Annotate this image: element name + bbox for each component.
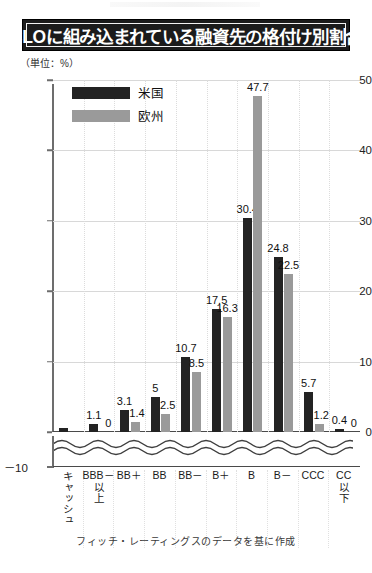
y-axis-tick-mark — [47, 290, 53, 292]
bar-value-label: 22.5 — [278, 259, 299, 271]
bar-us — [304, 392, 313, 432]
x-axis-category-label: BB－ — [178, 470, 202, 481]
x-axis-bottom-line — [52, 466, 360, 467]
x-axis-category-label: B－ — [274, 470, 291, 481]
source-note: フィッチ・レーティングスのデータを基に作成 — [0, 533, 372, 548]
x-axis-category-label: キャッシュ — [62, 470, 73, 526]
bar-value-label: 2.5 — [160, 399, 175, 411]
x-axis-category-label: BB＋ — [117, 470, 141, 481]
page-title: CLOに組み込まれている融資先の格付け別割合 — [10, 23, 362, 48]
legend-label-us: 米国 — [138, 83, 164, 102]
chart-title-bar: CLOに組み込まれている融資先の格付け別割合 — [22, 19, 350, 51]
bar-value-label: 0.4 — [332, 414, 347, 426]
category-separator — [176, 80, 177, 432]
legend-item-eu: 欧州 — [72, 106, 164, 125]
category-separator — [84, 80, 85, 432]
bar-value-label: 0 — [105, 417, 111, 429]
legend-item-us: 米国 — [72, 83, 164, 102]
bar-value-label: 5.7 — [301, 377, 316, 389]
chart-page: CLOに組み込まれている融資先の格付け別割合 （単位：%） 1.13.1510.… — [0, 0, 372, 573]
category-separator — [299, 80, 300, 432]
bar-eu — [253, 96, 262, 432]
page-top-artifact — [110, 2, 260, 7]
plot-area: 1.13.1510.717.530.424.85.70.401.42.58.51… — [53, 80, 360, 432]
bar-value-label: 10.7 — [175, 342, 196, 354]
y-axis-tick-mark — [47, 150, 53, 152]
y-axis-tick-mark — [47, 79, 53, 81]
bar-eu — [131, 422, 140, 432]
legend-swatch-us — [72, 87, 130, 99]
bar-value-label: 1.2 — [314, 409, 329, 421]
bar-value-label: 8.5 — [189, 357, 204, 369]
category-separator — [207, 80, 208, 432]
unit-label: （単位：%） — [20, 55, 79, 70]
category-separator — [145, 80, 146, 432]
legend-label-eu: 欧州 — [138, 106, 164, 125]
y-axis-tick-label: 10 — [328, 356, 372, 368]
category-separator — [329, 80, 330, 432]
bar-value-label: 1.4 — [129, 407, 144, 419]
bar-value-label: 47.7 — [247, 81, 268, 93]
bar-value-label: 3.1 — [117, 395, 132, 407]
x-axis-category-label: BBB－以上 — [83, 470, 114, 504]
y-axis-negative-label: －10 — [4, 459, 28, 475]
x-axis-category-label: B — [248, 470, 255, 481]
bar-eu — [223, 317, 232, 432]
bar-eu — [161, 414, 170, 432]
category-separator — [114, 80, 115, 432]
y-axis-tick-label: 50 — [328, 74, 372, 86]
x-axis-category-label: BB — [152, 470, 166, 481]
bar-value-label: 16.3 — [216, 302, 237, 314]
x-axis-category-label: CCC — [302, 470, 325, 481]
chart-legend: 米国 欧州 — [72, 83, 164, 129]
bar-eu — [315, 424, 324, 432]
bar-eu — [284, 274, 293, 432]
bar-us — [274, 257, 283, 432]
x-axis-category-label: B＋ — [212, 470, 229, 481]
y-axis-tick-mark — [47, 220, 53, 222]
bar-us — [243, 218, 252, 432]
bar-us — [212, 309, 221, 432]
legend-swatch-eu — [72, 110, 130, 122]
wavy-axis-break-icon — [53, 438, 353, 458]
y-axis-lower-segment — [52, 436, 54, 468]
bar-eu — [192, 372, 201, 432]
bar-us — [120, 410, 129, 432]
y-axis-tick-label: 40 — [328, 144, 372, 156]
bar-us — [151, 397, 160, 432]
bar-value-label: 24.8 — [267, 242, 288, 254]
category-separator — [237, 80, 238, 432]
y-axis-tick-label: 20 — [328, 285, 372, 297]
bar-us — [89, 424, 98, 432]
bar-value-label: 5 — [152, 382, 158, 394]
category-separator — [268, 80, 269, 432]
y-axis-tick-mark — [47, 361, 53, 363]
y-axis-tick-label: 30 — [328, 215, 372, 227]
bar-value-label: 1.1 — [86, 409, 101, 421]
negative-tick-mark — [47, 466, 53, 468]
x-axis-category-label: CC以下 — [336, 470, 351, 504]
